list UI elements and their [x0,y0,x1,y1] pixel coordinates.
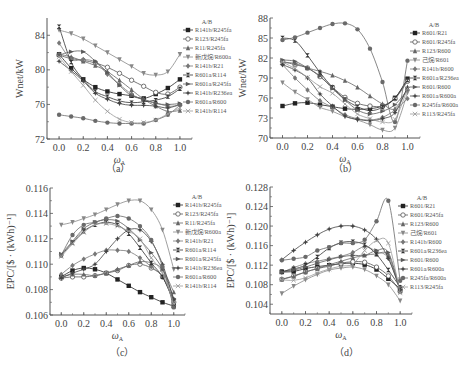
legend-item: R141b/R236ea [195,89,232,96]
legend-title: A/B [202,18,212,25]
legend-item: R601a/R600 [195,98,226,105]
legend-item: R601a/R114 [185,246,216,253]
x-tick-label: 0.4 [323,317,336,328]
series-新戊烷/R600a [59,199,176,272]
y-tick-label: 76 [35,99,45,110]
x-tick-label: 0.6 [347,317,360,328]
y-tick-label: 0.124 [246,201,269,212]
x-tick-label: 1.0 [401,141,414,152]
legend-item: R113/R245fa [422,110,455,117]
y-tick-label: 80 [35,64,45,75]
legend-title: A/B [192,193,202,200]
x-tick-label: 0.4 [326,141,339,152]
y-tick-label: 0.110 [26,259,48,270]
y-tick-label: 85 [258,33,268,44]
chart-a: 727680840.00.20.40.60.81.0ωAWnet/kWA/BR1… [14,18,232,166]
legend-item: R141b/R236ea [185,264,222,271]
y-tick-label: 0.108 [246,279,269,290]
legend-item: R123/R245fa [185,210,219,217]
x-tick-label: 0.0 [55,318,68,329]
x-tick-label: 0.4 [100,318,113,329]
legend-item: R601/R21 [422,29,447,36]
legend-item: R141b/R21 [195,62,224,69]
caption-c: （c） [110,344,134,359]
legend-item: R601a/R236ea [422,74,459,81]
legend-item: 己烷/R601 [422,56,449,64]
caption-a: （a） [106,160,130,175]
legend-item: R601a/R600a [410,265,444,272]
y-tick-label: 0.116 [26,183,48,194]
legend-c: A/BR141b/R245faR123/R245faR11/R245fa新戊烷/… [173,193,222,289]
legend-item: R113/R245fa [410,283,443,290]
y-axis-label: Wnet/kW [237,58,248,97]
x-tick-label: 0.8 [376,141,389,152]
y-tick-label: 0.112 [26,233,48,244]
x-tick-label: 0.2 [301,141,314,152]
legend-item: R601a/R600a [422,92,456,99]
x-tick-label: 0.0 [276,141,289,152]
x-tick-label: 0.0 [276,317,289,328]
series-R141b/R114 [59,221,176,305]
y-tick-label: 88 [258,13,268,24]
series-R601/R245fa [280,260,403,294]
legend-item: R141b/R600 [410,238,442,245]
x-tick-label: 1.0 [174,142,187,153]
legend-item: R601a/R245fa [195,80,231,87]
legend-a: A/BR141b/R245faR123/R245faR11/R245fa新戊烷/… [183,18,232,114]
y-tick-label: 0.120 [246,221,269,232]
legend-item: R11/R245fa [185,219,215,226]
legend-item: R123/R245fa [195,35,229,42]
series-R601a/R600 [57,103,182,126]
y-tick-label: 82 [258,53,268,64]
legend-item: 新戊烷/R600a [195,53,231,61]
legend-item: R141b/R114 [195,107,226,114]
legend-item: R601/R600 [410,256,439,263]
y-tick-label: 0.106 [26,310,49,321]
figure-canvas: 727680840.00.20.40.60.81.0ωAWnet/kWA/BR1… [0,0,473,368]
y-tick-label: 0.114 [26,208,48,219]
legend-item: R11/R245fa [195,44,225,51]
y-axis-label: EPC/[$ · (kWh)⁻¹] [225,213,237,288]
chart-b: 707376798285880.00.20.40.60.81.0ωAWnet/k… [237,13,459,166]
legend-item: R141b/R245fa [185,201,222,208]
series-R601a/R236ea [280,36,409,113]
chart-d: 0.1040.1080.1120.1160.1200.1240.1280.00.… [225,182,447,342]
legend-item: R141b/R245fa [195,26,232,33]
x-tick-label: 0.6 [351,141,364,152]
legend-item: R123/R600 [422,47,451,54]
legend-item: R601/R245fa [410,211,444,218]
x-tick-label: 0.8 [145,318,158,329]
legend-item: R245fa/R600a [410,274,446,281]
x-tick-label: 0.2 [299,317,312,328]
y-tick-label: 73 [258,113,268,124]
x-tick-label: 0.8 [370,317,383,328]
legend-item: R601/R245fa [422,38,456,45]
legend-item: R141b/R21 [185,237,214,244]
x-tick-label: 0.2 [78,318,91,329]
y-axis-label: Wnet/kW [14,59,25,98]
x-axis-label: ωA [112,330,124,342]
legend-item: R601a/R114 [195,71,226,78]
legend-item: R601/R600 [422,83,451,90]
x-tick-label: 0.2 [77,142,90,153]
caption-b: （b） [333,160,358,175]
legend-item: 新戊烷/R600a [185,228,221,236]
series-R123/R600 [280,60,409,111]
x-tick-label: 0.6 [125,142,138,153]
y-tick-label: 0.108 [26,284,49,295]
x-tick-label: 0.8 [150,142,163,153]
legend-item: R601a/R236ea [410,247,447,254]
legend-d: A/BR601/R21R601/R245faR123/R600己烷/R601R1… [398,194,447,290]
legend-item: R123/R600 [410,220,439,227]
chart-c: 0.1060.1080.1100.1120.1140.1160.00.20.40… [5,183,222,343]
y-axis-label: EPC/[$ · (kWh)⁻¹] [5,214,17,289]
x-tick-label: 0.6 [123,318,136,329]
y-tick-label: 79 [258,73,268,84]
legend-title: A/B [417,194,427,201]
legend-item: R245fa/R600a [422,101,458,108]
legend-title: A/B [429,21,439,28]
y-tick-label: 0.116 [246,240,268,251]
legend-item: R601/R21 [410,202,435,209]
y-tick-label: 0.112 [246,260,268,271]
legend-item: R141b/R600 [422,65,454,72]
